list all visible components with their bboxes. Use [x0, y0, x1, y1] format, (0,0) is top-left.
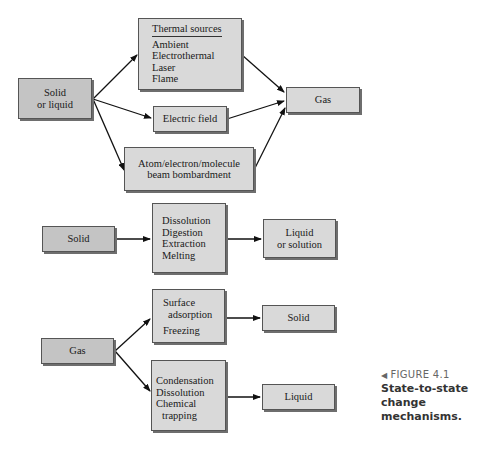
dissolution-process-box: Dissolution Digestion Extraction Melting: [152, 203, 226, 273]
liquid-or-solution-line1: Liquid: [286, 227, 314, 239]
beam-bombardment-box: Atom/electron/molecule beam bombardment: [124, 147, 254, 191]
electric-field-label: Electric field: [163, 113, 218, 125]
triangle-left-icon: ◀: [381, 371, 387, 380]
thermal-sources-box: Thermal sources Ambient Electrothermal L…: [138, 18, 242, 90]
process-item: Digestion: [162, 227, 225, 239]
thermal-sources-title: Thermal sources: [152, 23, 222, 37]
solid-or-liquid-line1: Solid: [44, 87, 66, 99]
process-item: adsorption: [163, 309, 224, 321]
liquid-target-box: Liquid: [262, 384, 335, 410]
figure-number: ◀FIGURE 4.1: [381, 369, 499, 380]
thermal-item: Ambient: [152, 39, 241, 51]
beam-bombardment-line2: beam bombardment: [147, 169, 231, 181]
figure-label: FIGURE 4.1: [390, 369, 449, 380]
gas-target-box: Gas: [286, 87, 360, 113]
solid-source-label: Solid: [67, 233, 89, 245]
thermal-item: Flame: [152, 73, 241, 85]
thermal-item: Electrothermal: [152, 50, 241, 62]
process-item: Extraction: [162, 238, 225, 250]
figure-caption: ◀FIGURE 4.1 State-to-state change mechan…: [381, 369, 499, 424]
gas-source-box: Gas: [41, 338, 114, 364]
process-item: Condensation: [156, 375, 225, 387]
process-item: Dissolution: [162, 215, 225, 227]
process-item: Melting: [162, 250, 225, 262]
process-item: Freezing: [163, 325, 224, 337]
condensation-process-box: Condensation Dissolution Chemical trappi…: [151, 360, 226, 431]
process-item: Chemical: [156, 398, 225, 410]
liquid-target-label: Liquid: [285, 391, 313, 403]
solid-target-box: Solid: [262, 305, 335, 331]
surface-adsorption-box: Surface adsorption Freezing: [152, 289, 225, 343]
solid-or-liquid-box: Solid or liquid: [18, 78, 92, 119]
figure-title-line2: mechanisms.: [381, 410, 499, 424]
process-item: trapping: [156, 410, 225, 422]
electric-field-box: Electric field: [153, 106, 227, 132]
figure-title-line1: State-to-state change: [381, 382, 499, 410]
liquid-or-solution-box: Liquid or solution: [263, 219, 336, 258]
gas-source-label: Gas: [69, 345, 85, 357]
solid-source-box: Solid: [42, 226, 115, 252]
beam-bombardment-line1: Atom/electron/molecule: [138, 158, 240, 170]
thermal-item: Laser: [152, 62, 241, 74]
solid-target-label: Solid: [287, 312, 309, 324]
liquid-or-solution-line2: or solution: [277, 239, 322, 251]
solid-or-liquid-line2: or liquid: [37, 99, 73, 111]
process-item: Surface: [163, 297, 224, 309]
gas-target-label: Gas: [315, 94, 331, 106]
process-item: Dissolution: [156, 387, 225, 399]
figure-title: State-to-state change mechanisms.: [381, 382, 499, 424]
